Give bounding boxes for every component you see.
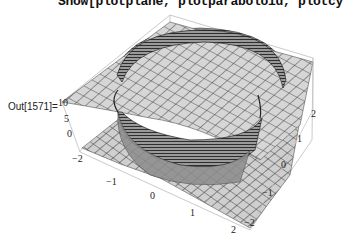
y-tick-neg1: −1 (262, 187, 273, 198)
x-tick-2: 2 (231, 224, 236, 235)
y-tick-neg2: −2 (244, 217, 255, 228)
y-tick-2: 2 (311, 108, 316, 119)
x-tick-1: 1 (190, 207, 195, 218)
y-tick-0: 0 (281, 159, 286, 170)
x-tick-neg2: −2 (72, 153, 83, 164)
x-tick-neg1: −1 (106, 176, 117, 187)
z-tick-10: 10 (58, 97, 68, 108)
y-tick-1: 1 (297, 133, 302, 144)
z-tick-5: 5 (64, 113, 69, 124)
x-tick-0: 0 (150, 190, 155, 201)
z-tick-0: 0 (67, 128, 72, 139)
